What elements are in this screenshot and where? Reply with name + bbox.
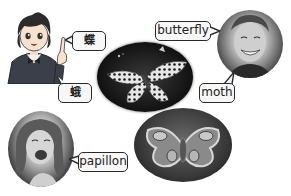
butterfly-icon [97,42,193,112]
moth-icon [134,108,232,182]
moth-photo [134,108,232,182]
label-text: papillon [79,153,127,170]
man-face-icon [217,10,283,78]
cartoon-student-image [4,6,72,84]
girl-portrait [8,111,74,187]
label-chinese-butterfly: 蝶 [72,31,106,51]
label-text: 蛾 [59,84,91,101]
butterfly-photo [97,42,193,112]
label-chinese-moth: 蛾 [58,83,92,103]
bubble-pointer [210,26,220,36]
label-english-butterfly: butterfly [155,21,211,41]
label-text: moth [200,84,234,101]
man-portrait [217,10,283,78]
vocabulary-illustration: 蝶 蛾 butterfly moth papillon [0,0,291,196]
label-french-papillon: papillon [78,152,128,172]
label-english-moth: moth [199,83,235,103]
label-text: 蝶 [73,32,105,49]
girl-face-icon [8,111,74,187]
label-text: butterfly [156,22,210,39]
